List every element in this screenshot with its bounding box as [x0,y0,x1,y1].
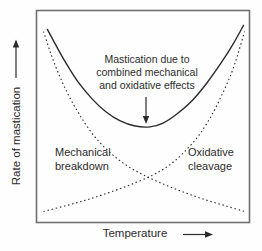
plot-border [37,11,250,223]
plot-canvas [0,0,262,251]
oxidative-cleavage-label: Oxidative cleavage [188,146,248,173]
mastication-temperature-chart: Mastication due to combined mechanical a… [0,0,262,251]
annotation-text: Mastication due to combined mechanical a… [76,53,218,92]
y-axis-label: Rate of mastication [10,81,22,191]
x-axis-label: Temperature [65,227,205,239]
y-axis-arrow-icon [13,40,19,79]
mechanical-breakdown-label: Mechanical breakdown [55,146,125,173]
annotation-arrow-icon [143,97,149,124]
